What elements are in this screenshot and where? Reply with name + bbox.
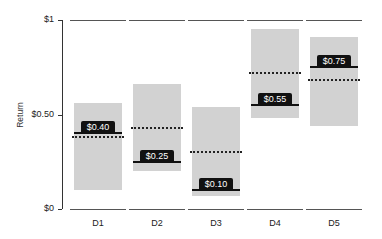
top-rule — [306, 20, 362, 21]
y-axis-line — [62, 20, 63, 209]
x-axis-label: D5 — [306, 218, 362, 228]
dotted-line — [190, 151, 242, 153]
value-label: $0.10 — [199, 178, 233, 190]
y-tick-label: $1 — [6, 14, 54, 24]
baseline-rule — [247, 209, 303, 210]
x-axis-label: D2 — [129, 218, 185, 228]
top-rule — [70, 20, 126, 21]
baseline-rule — [306, 209, 362, 210]
baseline-rule — [129, 209, 185, 210]
value-label: $0.55 — [258, 93, 292, 105]
value-label: $0.40 — [81, 121, 115, 133]
dotted-line — [249, 72, 301, 74]
y-tick-label: $0.50 — [6, 109, 54, 119]
top-rule — [188, 20, 244, 21]
baseline-rule — [70, 209, 126, 210]
range-bar — [74, 103, 122, 190]
top-rule — [247, 20, 303, 21]
value-label: $0.25 — [140, 150, 174, 162]
y-tick-mark — [58, 20, 62, 21]
x-axis-label: D4 — [247, 218, 303, 228]
y-tick-label: $0 — [6, 203, 54, 213]
y-tick-mark — [58, 115, 62, 116]
dotted-line — [308, 79, 360, 81]
x-axis-label: D3 — [188, 218, 244, 228]
dotted-line — [131, 127, 183, 129]
y-tick-mark — [58, 209, 62, 210]
value-label: $0.75 — [317, 55, 351, 67]
x-axis-label: D1 — [70, 218, 126, 228]
baseline-rule — [188, 209, 244, 210]
top-rule — [129, 20, 185, 21]
dotted-line — [72, 136, 124, 138]
